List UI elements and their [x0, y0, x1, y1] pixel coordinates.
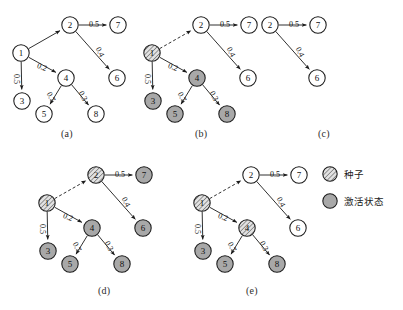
node-1: 1: [39, 195, 55, 211]
node-6: 6: [135, 220, 151, 236]
edge-weight-2-7: 0.5: [289, 20, 299, 29]
legend-label-seed: 种子: [344, 167, 364, 181]
node-6: 6: [109, 70, 125, 86]
panel-caption-c: (c): [318, 128, 330, 139]
edge-weight-2-6: 0.4: [94, 45, 107, 58]
panel-caption-a: (a): [61, 128, 73, 139]
figure-canvas: 0.50.40.50.20.70.3123456780.50.40.50.20.…: [0, 0, 403, 310]
edge-weight-4-8: 0.3: [258, 239, 271, 252]
node-label-2: 2: [94, 170, 99, 180]
edge-weight-1-4: 0.2: [217, 211, 230, 223]
node-label-5: 5: [68, 259, 73, 269]
edge-weight-2-6: 0.4: [275, 195, 288, 208]
node-8: 8: [88, 106, 104, 122]
node-2: 2: [88, 167, 104, 183]
node-label-8: 8: [94, 109, 99, 119]
legend: [323, 167, 337, 208]
edge-1-to-2: [55, 181, 86, 199]
edge-weight-1-4: 0.2: [36, 61, 49, 73]
panel-caption-e: (e): [246, 285, 258, 296]
edge-weight-4-5: 0.7: [45, 90, 58, 103]
node-label-7: 7: [247, 20, 252, 30]
edge-weight-1-3: 0.5: [38, 224, 47, 234]
edge-weight-1-3: 0.5: [143, 74, 152, 84]
node-1: 1: [194, 195, 210, 211]
node-label-2: 2: [249, 170, 254, 180]
node-label-3: 3: [20, 96, 25, 106]
legend-swatch-hatched: [323, 167, 337, 181]
panel-a: 0.50.40.50.20.70.312345678: [12, 17, 127, 122]
edge-weight-4-8: 0.3: [208, 89, 221, 102]
node-label-8: 8: [225, 109, 230, 119]
node-label-3: 3: [151, 96, 156, 106]
edge-weight-2-7: 0.5: [270, 170, 280, 179]
node-5: 5: [217, 256, 233, 272]
edge-weight-4-8: 0.3: [103, 239, 116, 252]
node-label-7: 7: [116, 20, 121, 30]
edge-weight-1-4: 0.2: [167, 61, 180, 73]
node-3: 3: [145, 93, 161, 109]
node-3: 3: [195, 243, 211, 259]
edge-1-to-2: [210, 181, 241, 199]
node-8: 8: [219, 106, 235, 122]
node-label-3: 3: [201, 246, 206, 256]
node-label-1: 1: [45, 198, 50, 208]
node-label-7: 7: [142, 170, 147, 180]
node-7: 7: [110, 17, 126, 33]
node-7: 7: [291, 167, 307, 183]
node-1: 1: [13, 45, 29, 61]
node-5: 5: [167, 106, 183, 122]
node-label-4: 4: [195, 73, 200, 83]
node-8: 8: [114, 256, 130, 272]
node-4: 4: [58, 70, 74, 86]
node-label-1: 1: [19, 48, 24, 58]
panel-caption-b: (b): [195, 128, 207, 139]
edge-weight-4-5: 0.7: [71, 240, 84, 253]
node-6: 6: [290, 220, 306, 236]
node-7: 7: [241, 17, 257, 33]
edge-weight-1-3: 0.5: [193, 224, 202, 234]
node-6: 6: [240, 70, 256, 86]
node-1: 1: [144, 45, 160, 61]
node-label-4: 4: [90, 223, 95, 233]
node-2: 2: [262, 17, 278, 33]
panel-caption-d: (d): [98, 285, 110, 296]
node-label-5: 5: [223, 259, 228, 269]
node-8: 8: [269, 256, 285, 272]
node-6: 6: [309, 70, 325, 86]
node-5: 5: [62, 256, 78, 272]
node-4: 4: [84, 220, 100, 236]
edge-weight-2-6: 0.4: [225, 45, 238, 58]
panel-d: 0.50.40.50.20.70.312345678: [38, 167, 153, 272]
node-label-4: 4: [245, 223, 250, 233]
node-label-1: 1: [150, 48, 155, 58]
node-label-8: 8: [275, 259, 280, 269]
node-label-6: 6: [141, 223, 146, 233]
node-label-2: 2: [199, 20, 204, 30]
node-label-6: 6: [296, 223, 301, 233]
edge-weight-2-7: 0.5: [115, 170, 125, 179]
edge-weight-4-8: 0.3: [77, 89, 90, 102]
edge-weight-2-7: 0.5: [220, 20, 230, 29]
edge-weight-2-7: 0.5: [89, 20, 99, 29]
panel-b: 0.50.40.50.20.70.312345678: [143, 17, 258, 122]
edge-1-to-2: [160, 31, 191, 49]
node-2: 2: [243, 167, 259, 183]
legend-label-activated: 激活状态: [344, 194, 384, 208]
node-label-8: 8: [120, 259, 125, 269]
node-label-6: 6: [115, 73, 120, 83]
node-label-6: 6: [246, 73, 251, 83]
node-4: 4: [189, 70, 205, 86]
panel-e: 0.50.40.50.20.70.312345678: [193, 167, 308, 272]
node-label-6: 6: [315, 73, 320, 83]
node-label-7: 7: [316, 20, 321, 30]
edge-weight-1-3: 0.5: [12, 74, 21, 84]
node-3: 3: [14, 93, 30, 109]
node-7: 7: [310, 17, 326, 33]
node-label-5: 5: [42, 109, 47, 119]
edge-weight-2-6: 0.4: [294, 45, 307, 58]
node-4: 4: [239, 220, 255, 236]
node-label-1: 1: [200, 198, 205, 208]
node-2: 2: [193, 17, 209, 33]
graph-diagram: 0.50.40.50.20.70.3123456780.50.40.50.20.…: [0, 0, 403, 310]
